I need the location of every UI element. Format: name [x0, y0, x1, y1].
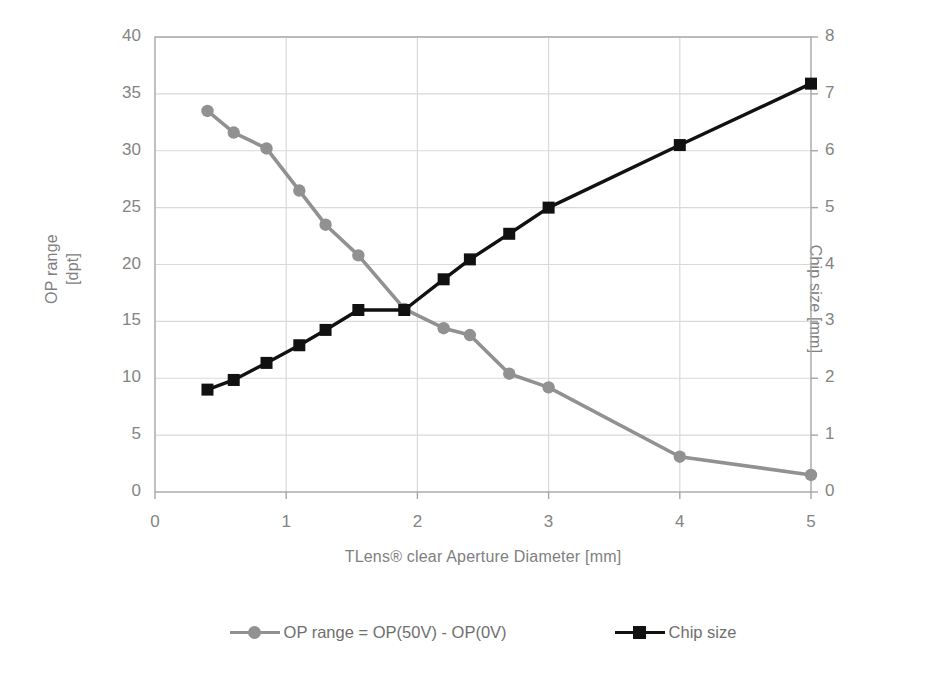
x-axis-tick-label: 3: [527, 512, 571, 532]
y-axis-right-tick-label: 0: [825, 481, 869, 501]
y-axis-left-tick-label: 0: [97, 481, 141, 501]
x-axis-tick-label: 4: [658, 512, 702, 532]
data-point-2-13: [805, 78, 817, 90]
data-point-1-11: [542, 381, 554, 393]
data-point-2-6: [352, 304, 364, 316]
data-point-1-1: [201, 105, 213, 117]
data-point-2-8: [438, 273, 450, 285]
y-axis-right-tick-label: 6: [825, 140, 869, 160]
y-axis-right-tick-label: 1: [825, 424, 869, 444]
data-point-2-7: [398, 304, 410, 316]
y-axis-left-tick-label: 30: [97, 140, 141, 160]
data-point-2-9: [464, 253, 476, 265]
data-point-2-5: [320, 324, 332, 336]
data-point-1-10: [503, 368, 515, 380]
legend-marker-circle-icon: [230, 624, 280, 640]
series-line-1: [207, 111, 811, 475]
data-point-2-4: [293, 339, 305, 351]
data-point-2-3: [261, 357, 273, 369]
x-axis-tick-label: 1: [264, 512, 308, 532]
data-point-2-12: [674, 139, 686, 151]
y-axis-left-tick-label: 10: [97, 367, 141, 387]
data-point-1-9: [464, 329, 476, 341]
y-axis-left-tick-label: 35: [97, 83, 141, 103]
legend-item-2[interactable]: Chip size: [615, 623, 737, 642]
legend-item-1[interactable]: OP range = OP(50V) - OP(0V): [230, 623, 507, 642]
y-axis-right-tick-label: 8: [825, 26, 869, 46]
y-axis-right-tick-label: 3: [825, 310, 869, 330]
data-point-2-1: [201, 384, 213, 396]
data-point-2-11: [543, 202, 555, 214]
y-axis-left-tick-label: 5: [97, 424, 141, 444]
data-point-2-10: [503, 228, 515, 240]
plot-area: [0, 0, 940, 674]
x-axis-tick-label: 2: [395, 512, 439, 532]
y-axis-left-tick-label: 20: [97, 254, 141, 274]
y-axis-right-tick-label: 7: [825, 83, 869, 103]
data-point-1-12: [674, 451, 686, 463]
chart-figure: OP range [dpt] Chip size [mm] TLens® cle…: [0, 0, 940, 674]
legend-marker-square-icon: [615, 624, 665, 640]
chart-legend: OP range = OP(50V) - OP(0V)Chip size: [155, 612, 811, 652]
y-axis-right-tick-label: 2: [825, 367, 869, 387]
data-point-1-4: [293, 184, 305, 196]
legend-label: Chip size: [669, 623, 737, 642]
legend-label: OP range = OP(50V) - OP(0V): [284, 623, 507, 642]
data-point-1-8: [437, 322, 449, 334]
data-point-1-3: [260, 142, 272, 154]
x-axis-tick-label: 0: [133, 512, 177, 532]
legend-marker: [633, 626, 646, 639]
data-point-1-13: [805, 469, 817, 481]
data-point-1-5: [319, 218, 331, 230]
y-axis-right-tick-label: 4: [825, 254, 869, 274]
y-axis-left-tick-label: 25: [97, 197, 141, 217]
x-axis-tick-label: 5: [789, 512, 833, 532]
data-point-1-2: [228, 126, 240, 138]
y-axis-left-tick-label: 15: [97, 310, 141, 330]
data-point-1-6: [352, 249, 364, 261]
y-axis-left-tick-label: 40: [97, 26, 141, 46]
data-point-2-2: [228, 374, 240, 386]
y-axis-right-tick-label: 5: [825, 197, 869, 217]
legend-marker: [248, 626, 261, 639]
